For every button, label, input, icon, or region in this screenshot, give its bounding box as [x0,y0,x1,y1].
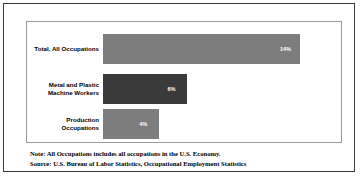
bar-value-label: 4% [139,121,147,127]
category-label-metal-and-plastic-machine-workers: Metal and Plastic Machine Workers [0,81,103,96]
bar-total-all-occupations[interactable]: 14% [103,34,300,64]
footnotes: Note: All Occupations includes all occup… [30,149,350,168]
bar-metal-and-plastic-machine-workers[interactable]: 6% [103,74,187,104]
chart-figure: Total, All Occupations 14% Metal and Pla… [0,0,360,180]
bar-value-label: 14% [280,46,291,52]
bar-value-label: 6% [167,86,175,92]
footnote-source: Source: U.S. Bureau of Labor Statistics,… [30,159,350,169]
category-label-total-all-occupations: Total, All Occupations [0,45,103,53]
footnote-note: Note: All Occupations includes all occup… [30,149,350,159]
category-label-production-occupations: Production Occupations [0,116,103,131]
plot-area: Total, All Occupations 14% Metal and Pla… [26,21,342,143]
bar-production-occupations[interactable]: 4% [103,109,159,139]
figure-outer-frame: Total, All Occupations 14% Metal and Pla… [3,3,355,172]
